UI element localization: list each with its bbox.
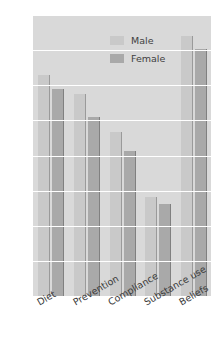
legend-swatch-male <box>110 36 124 45</box>
x-axis-labels: DietPreventionComplianceSubstance useBel… <box>33 298 211 358</box>
legend-label-female: Female <box>131 53 165 64</box>
legend: Male Female <box>110 33 165 69</box>
legend-label-male: Male <box>131 35 154 46</box>
legend-item-male: Male <box>110 33 165 48</box>
legend-swatch-female <box>110 54 124 63</box>
bar-chart: 00.511.522.533.54 Male Female DietPreven… <box>0 0 220 361</box>
legend-item-female: Female <box>110 51 165 66</box>
